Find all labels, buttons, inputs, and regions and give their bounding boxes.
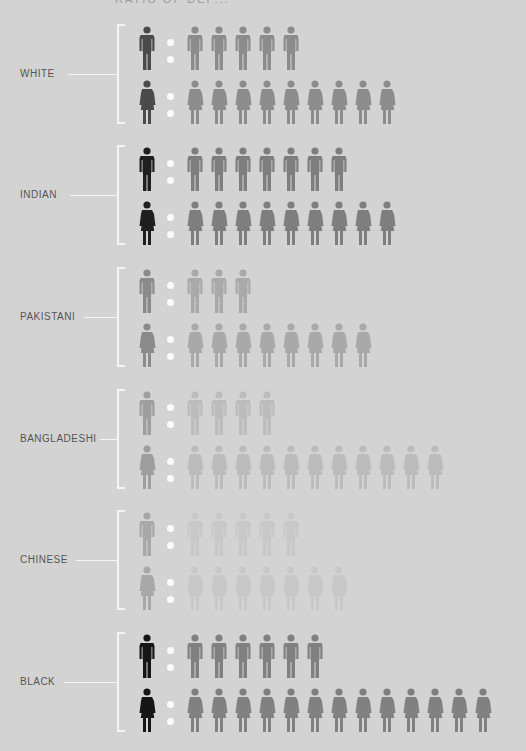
- woman-icon: [138, 201, 156, 247]
- man-icon: [330, 147, 348, 193]
- ratio-colon-icon: [164, 566, 178, 612]
- woman-icon: [186, 80, 204, 126]
- man-icon: [258, 634, 276, 680]
- man-icon: [138, 634, 156, 680]
- woman-icon: [186, 688, 204, 734]
- bracket: [117, 145, 125, 245]
- man-icon: [210, 269, 228, 315]
- women-row: [138, 323, 378, 369]
- chart-title: RATIO OF DEP...: [115, 0, 230, 5]
- woman-icon: [282, 80, 300, 126]
- woman-icon: [378, 688, 396, 734]
- ratio-colon-icon: [164, 445, 178, 491]
- woman-icon: [330, 688, 348, 734]
- connector-line: [84, 317, 117, 318]
- man-icon: [138, 26, 156, 72]
- connector-line: [100, 439, 117, 440]
- woman-icon: [138, 323, 156, 369]
- woman-icon: [474, 688, 492, 734]
- woman-icon: [210, 445, 228, 491]
- woman-icon: [354, 323, 372, 369]
- woman-icon: [258, 688, 276, 734]
- woman-icon: [138, 566, 156, 612]
- group-chinese: CHINESE: [0, 510, 526, 612]
- women-row: [138, 688, 498, 734]
- bracket: [117, 510, 125, 610]
- man-icon: [186, 269, 204, 315]
- woman-icon: [282, 323, 300, 369]
- group-label: INDIAN: [20, 189, 57, 200]
- bracket: [117, 632, 125, 732]
- woman-icon: [330, 323, 348, 369]
- woman-icon: [354, 80, 372, 126]
- man-icon: [186, 26, 204, 72]
- man-icon: [138, 512, 156, 558]
- woman-icon: [186, 445, 204, 491]
- group-pakistani: PAKISTANI: [0, 267, 526, 369]
- woman-icon: [378, 201, 396, 247]
- woman-icon: [186, 566, 204, 612]
- men-row: [138, 391, 282, 437]
- group-label: PAKISTANI: [20, 311, 75, 322]
- woman-icon: [282, 566, 300, 612]
- man-icon: [234, 512, 252, 558]
- woman-icon: [306, 445, 324, 491]
- woman-icon: [186, 323, 204, 369]
- men-row: [138, 26, 306, 72]
- woman-icon: [234, 201, 252, 247]
- ratio-colon-icon: [164, 688, 178, 734]
- bracket: [117, 389, 125, 489]
- woman-icon: [234, 80, 252, 126]
- woman-icon: [306, 688, 324, 734]
- woman-icon: [258, 445, 276, 491]
- ratio-colon-icon: [164, 512, 178, 558]
- woman-icon: [210, 323, 228, 369]
- woman-icon: [306, 80, 324, 126]
- woman-icon: [330, 80, 348, 126]
- woman-icon: [330, 566, 348, 612]
- man-icon: [234, 391, 252, 437]
- woman-icon: [426, 445, 444, 491]
- woman-icon: [258, 80, 276, 126]
- man-icon: [282, 147, 300, 193]
- woman-icon: [306, 566, 324, 612]
- woman-icon: [138, 688, 156, 734]
- woman-icon: [186, 201, 204, 247]
- woman-icon: [282, 688, 300, 734]
- women-row: [138, 80, 402, 126]
- man-icon: [282, 26, 300, 72]
- man-icon: [210, 26, 228, 72]
- man-icon: [186, 512, 204, 558]
- woman-icon: [354, 688, 372, 734]
- connector-line: [68, 74, 117, 75]
- man-icon: [306, 147, 324, 193]
- woman-icon: [234, 566, 252, 612]
- man-icon: [282, 634, 300, 680]
- woman-icon: [138, 80, 156, 126]
- man-icon: [186, 391, 204, 437]
- woman-icon: [210, 80, 228, 126]
- ratio-colon-icon: [164, 269, 178, 315]
- ratio-colon-icon: [164, 634, 178, 680]
- men-row: [138, 512, 306, 558]
- woman-icon: [378, 445, 396, 491]
- man-icon: [234, 26, 252, 72]
- group-indian: INDIAN: [0, 145, 526, 247]
- women-row: [138, 445, 450, 491]
- woman-icon: [330, 445, 348, 491]
- group-label: BANGLADESHI: [20, 433, 97, 444]
- bracket: [117, 267, 125, 367]
- man-icon: [234, 147, 252, 193]
- man-icon: [234, 269, 252, 315]
- woman-icon: [402, 445, 420, 491]
- man-icon: [210, 391, 228, 437]
- woman-icon: [450, 688, 468, 734]
- women-row: [138, 566, 354, 612]
- woman-icon: [330, 201, 348, 247]
- man-icon: [138, 147, 156, 193]
- ratio-colon-icon: [164, 391, 178, 437]
- woman-icon: [258, 323, 276, 369]
- woman-icon: [378, 80, 396, 126]
- man-icon: [138, 391, 156, 437]
- woman-icon: [306, 201, 324, 247]
